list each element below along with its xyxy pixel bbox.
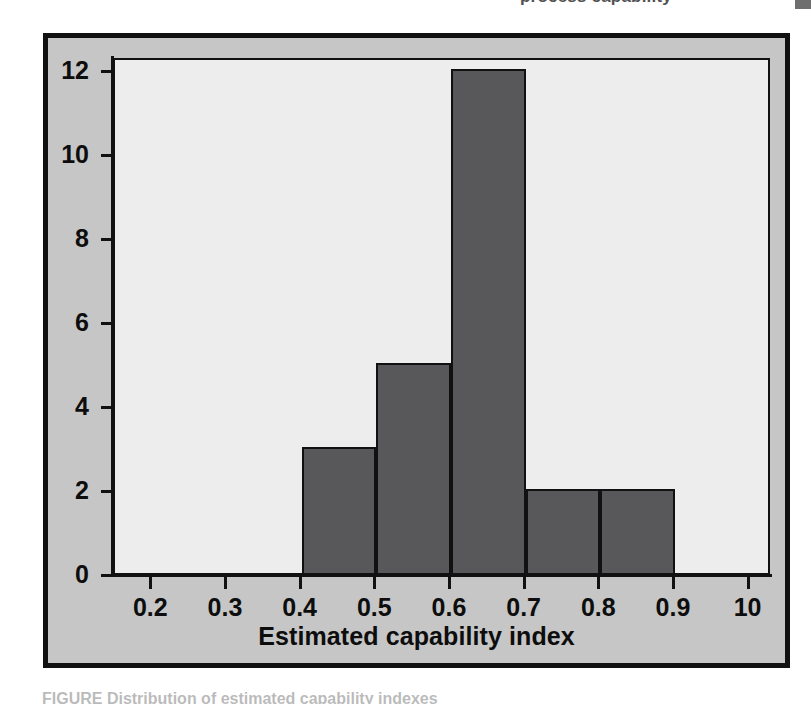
x-axis-title: Estimated capability index	[48, 622, 785, 651]
y-tick-mark	[101, 70, 113, 73]
clipped-header-text: process capability	[520, 0, 790, 7]
x-tick-mark	[523, 577, 526, 589]
y-tick-mark	[101, 406, 113, 409]
plot-area	[113, 58, 770, 575]
x-tick-mark	[149, 577, 152, 589]
histogram-bar	[302, 447, 377, 573]
header-swatch	[795, 0, 811, 9]
y-tick-mark	[101, 238, 113, 241]
y-tick-label: 2	[49, 478, 89, 503]
x-tick-label: 0.2	[115, 595, 185, 620]
x-tick-mark	[299, 577, 302, 589]
x-tick-label: 0.5	[339, 595, 409, 620]
x-tick-mark	[448, 577, 451, 589]
x-tick-mark	[373, 577, 376, 589]
y-tick-mark	[101, 154, 113, 157]
x-tick-label: 0.7	[489, 595, 559, 620]
x-tick-mark	[224, 577, 227, 589]
histogram-bar	[526, 489, 601, 573]
x-tick-mark	[747, 577, 750, 589]
x-tick-label: 0.3	[190, 595, 260, 620]
histogram-bar	[451, 69, 526, 573]
y-tick-label: 6	[49, 310, 89, 335]
histogram-bar	[600, 489, 675, 573]
x-tick-label: 0.6	[414, 595, 484, 620]
figure-frame: indexes above 1.33 capability studies Se…	[43, 33, 790, 668]
x-tick-label: 0.9	[638, 595, 708, 620]
x-tick-mark	[672, 577, 675, 589]
x-tick-label: 0.8	[563, 595, 633, 620]
y-tick-mark	[101, 322, 113, 325]
x-tick-label: 0.4	[265, 595, 335, 620]
x-tick-mark	[597, 577, 600, 589]
y-tick-mark	[101, 490, 113, 493]
y-tick-label: 10	[49, 142, 89, 167]
y-tick-mark	[101, 574, 113, 577]
y-tick-label: 8	[49, 226, 89, 251]
x-tick-label: 10	[713, 595, 783, 620]
y-tick-label: 4	[49, 394, 89, 419]
y-tick-label: 0	[49, 562, 89, 587]
clipped-caption-text: FIGURE Distribution of estimated capabil…	[42, 690, 662, 704]
histogram-bar	[376, 363, 451, 573]
y-tick-label: 12	[49, 58, 89, 83]
